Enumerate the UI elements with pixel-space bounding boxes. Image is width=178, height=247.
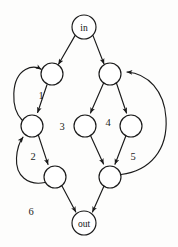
node-n4-circle[interactable] (74, 115, 96, 137)
node-n7[interactable] (99, 166, 121, 188)
node-n6-circle[interactable] (44, 166, 66, 188)
node-group: in (21, 15, 142, 235)
edge-n7-to-out (93, 186, 105, 212)
node-n2[interactable] (99, 63, 121, 85)
node-n3[interactable] (21, 115, 43, 137)
node-n7-circle[interactable] (99, 166, 121, 188)
node-n6[interactable] (44, 166, 66, 188)
region-label-1: 1 (38, 90, 43, 101)
edge-n5-to-n7 (115, 136, 126, 165)
control-flow-graph-figure: in (0, 0, 178, 247)
region-label-6: 6 (28, 206, 33, 217)
node-out-label: out (78, 219, 91, 229)
edge-n4-to-n7 (91, 136, 104, 165)
region-label-4: 4 (105, 117, 111, 128)
node-out[interactable]: out (72, 211, 96, 235)
node-n4[interactable] (74, 115, 96, 137)
node-n1[interactable] (41, 63, 63, 85)
node-n1-circle[interactable] (41, 63, 63, 85)
node-n2-circle[interactable] (99, 63, 121, 85)
node-n3-circle[interactable] (21, 115, 43, 137)
edge-in-to-n1 (59, 36, 76, 65)
edge-in-to-n2 (93, 36, 104, 64)
node-n5[interactable] (120, 115, 142, 137)
edge-n3-to-n6 (38, 135, 48, 164)
edge-n6-to-out (62, 186, 76, 212)
edge-n2-to-n5 (117, 83, 127, 113)
graph-canvas: in (0, 0, 178, 247)
edge-n2-to-n4 (91, 83, 104, 113)
region-label-5: 5 (130, 151, 135, 162)
region-label-3: 3 (59, 121, 64, 132)
region-label-2: 2 (30, 151, 35, 162)
node-in[interactable]: in (72, 15, 96, 39)
node-n5-circle[interactable] (120, 115, 142, 137)
edge-n3-to-n1 (14, 67, 41, 120)
node-in-label: in (80, 23, 88, 33)
